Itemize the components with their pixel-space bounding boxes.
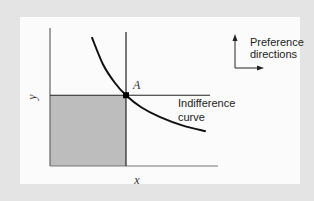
x-axis-label: x xyxy=(133,173,140,187)
less-preferred-region xyxy=(50,95,126,166)
indifference-diagram: A Indifference curve Preference directio… xyxy=(0,0,314,201)
y-axis-label: y xyxy=(25,94,39,101)
legend-line1: Preference xyxy=(250,36,304,48)
point-a-label: A xyxy=(132,78,141,92)
point-a-marker xyxy=(123,92,129,98)
legend-line2: directions xyxy=(250,48,298,60)
arrow-right-icon xyxy=(257,66,264,71)
curve-label-line2: curve xyxy=(178,111,205,123)
arrow-up-icon xyxy=(233,34,238,41)
curve-label-line1: Indifference xyxy=(178,97,235,109)
